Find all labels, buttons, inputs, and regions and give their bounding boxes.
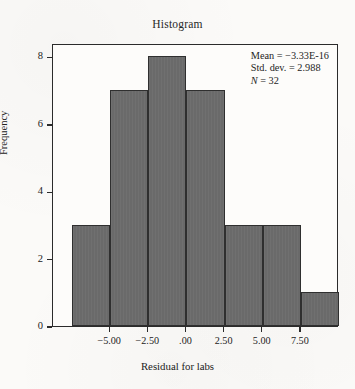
histogram-bar [263, 225, 301, 326]
mean-label: Mean = −3.33E-16 [251, 50, 329, 62]
histogram-bar [72, 225, 110, 326]
y-tick-label: 6 [21, 118, 43, 129]
y-tick-label: 2 [21, 253, 43, 264]
x-tick-mark [299, 327, 300, 332]
x-tick-mark [223, 327, 224, 332]
y-tick-label: 0 [21, 320, 43, 331]
x-axis-title: Residual for labs [0, 360, 355, 372]
y-tick-mark [47, 124, 52, 125]
sample-size-value: = 32 [258, 75, 279, 86]
statistics-annotation: Mean = −3.33E-16 Std. dev. = 2.988 N = 3… [251, 50, 329, 87]
y-tick-mark [47, 326, 52, 327]
x-tick-mark [185, 327, 186, 332]
std-dev-label: Std. dev. = 2.988 [251, 62, 329, 74]
chart-title: Histogram [0, 18, 355, 30]
y-tick-label: 8 [21, 50, 43, 61]
x-tick-label: 7.50 [277, 335, 323, 346]
x-tick-mark [109, 327, 110, 332]
sample-size-label: N = 32 [251, 75, 329, 87]
x-tick-mark [147, 327, 148, 332]
y-tick-label: 4 [21, 185, 43, 196]
y-tick-mark [47, 259, 52, 260]
plot-area: Mean = −3.33E-16 Std. dev. = 2.988 N = 3… [52, 44, 338, 327]
histogram-figure: Histogram Mean = −3.33E-16 Std. dev. = 2… [0, 0, 355, 389]
sample-size-symbol: N [251, 75, 258, 86]
histogram-bar [110, 90, 148, 326]
y-tick-mark [47, 192, 52, 193]
histogram-bar [148, 56, 186, 326]
histogram-bar [225, 225, 263, 326]
y-axis-title: Frequency [0, 111, 9, 155]
histogram-bar [301, 292, 339, 326]
x-tick-mark [261, 327, 262, 332]
histogram-bar [186, 90, 224, 326]
y-tick-mark [47, 57, 52, 58]
